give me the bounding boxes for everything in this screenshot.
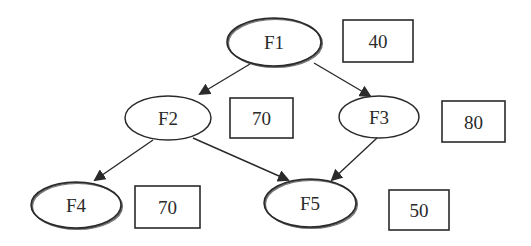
value-box-f5: 50: [389, 190, 449, 230]
node-f4: F4: [31, 182, 123, 230]
edge-f3-to-f5: [332, 138, 377, 180]
node-f1: F1: [227, 18, 323, 68]
value-box-label: 70: [158, 197, 177, 218]
value-box-f3: 80: [442, 101, 505, 142]
value-box-f1: 40: [343, 20, 413, 62]
edge-f1-to-f3: [314, 63, 370, 96]
node-label: F1: [264, 32, 284, 53]
value-box-label: 70: [252, 108, 271, 129]
value-box-label: 50: [410, 200, 429, 221]
node-label: F2: [158, 108, 178, 129]
node-label: F3: [369, 107, 389, 128]
node-label: F5: [300, 193, 320, 214]
edge-f2-to-f5: [193, 138, 288, 180]
edge-f1-to-f2: [200, 64, 250, 94]
node-f5: F5: [264, 179, 358, 229]
value-box-label: 40: [369, 31, 388, 52]
node-label: F4: [66, 195, 87, 216]
edge-f2-to-f4: [95, 140, 153, 180]
node-f3: F3: [339, 96, 419, 138]
value-box-f4: 70: [135, 186, 200, 228]
diagram-canvas: F1F2F3F4F5 4070807050: [0, 0, 531, 246]
node-f2: F2: [125, 96, 211, 140]
value-box-f2: 70: [230, 98, 293, 138]
value-box-label: 80: [464, 112, 483, 133]
